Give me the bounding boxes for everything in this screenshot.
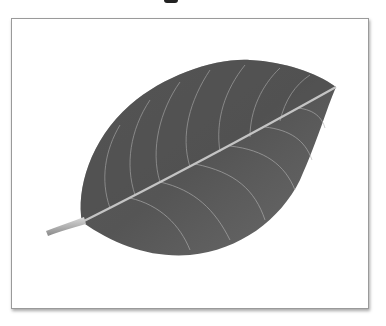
leaf-stem	[46, 217, 86, 236]
leaf-photo	[0, 0, 386, 326]
